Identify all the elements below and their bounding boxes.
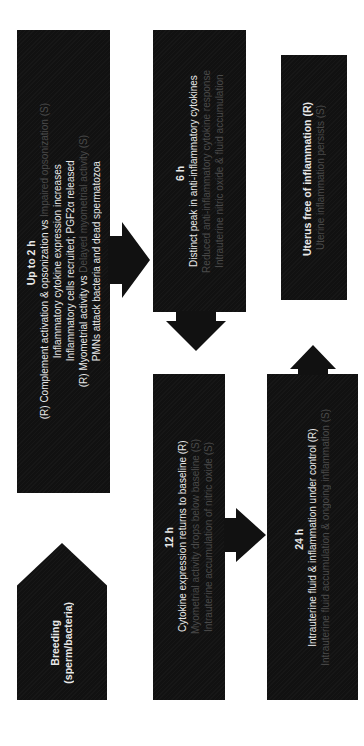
up-to-2h-line4: (R) Myometrial activity vs Delayed myome…	[77, 135, 90, 387]
uterus-node: Uterus free of inflammation (R) Uterine …	[281, 55, 347, 300]
12h-line3: Intrauterine accumulation of nitric oxid…	[202, 442, 215, 632]
6h-node: 6 h Distinct peak in anti-inflammatory c…	[153, 30, 246, 312]
up-to-2h-line2: Inflammatory cytokine expression increas…	[51, 165, 64, 359]
24h-line2: Intrauterine fluid accumulation & ongoin…	[319, 409, 332, 666]
breeding-node: Breeding (sperm/bacteria)	[17, 543, 107, 700]
up-to-2h-line1: (R) Complement activation & opsonization…	[38, 103, 51, 419]
24h-node: 24 h Intrauterine fluid & inflammation u…	[267, 374, 358, 700]
6h-line3: Intrauterine nitric oxide & fluid accumu…	[213, 74, 226, 267]
breeding-label: Breeding	[49, 620, 62, 666]
arrow-right-icon	[224, 508, 266, 562]
arrow-up-icon	[290, 345, 336, 375]
uterus-line1: Uterus free of inflammation (R)	[301, 102, 314, 256]
12h-line1: Cytokine expression returns to baseline …	[176, 441, 189, 633]
6h-line1: Distinct peak in anti-inflammatory cytok…	[187, 75, 200, 267]
up-to-2h-line3: Inflammatory cells recruited; PGF2α rele…	[64, 161, 77, 362]
arrow-down-icon	[166, 311, 226, 351]
12h-node: 12 h Cytokine expression returns to base…	[153, 374, 225, 700]
24h-line1: Intrauterine fluid & inflammation under …	[306, 428, 319, 646]
6h-title: 6 h	[174, 165, 187, 180]
12h-title: 12 h	[163, 528, 176, 549]
6h-line2: Reduced anti-inflammatory cytokine respo…	[200, 70, 213, 273]
arrow-right-icon	[108, 222, 150, 298]
12h-line2: Myometrial activity drops below baseline…	[189, 439, 202, 634]
up-to-2h-title: Up to 2 h	[25, 241, 38, 286]
up-to-2h-node: Up to 2 h (R) Complement activation & op…	[17, 30, 110, 493]
up-to-2h-line5: PMNs attack bacteria and dead spermatozo…	[90, 161, 103, 361]
uterus-line2: Uterine inflammation persists (S)	[314, 105, 327, 250]
24h-title: 24 h	[293, 528, 306, 549]
breeding-sublabel: (sperm/bacteria)	[62, 602, 75, 684]
